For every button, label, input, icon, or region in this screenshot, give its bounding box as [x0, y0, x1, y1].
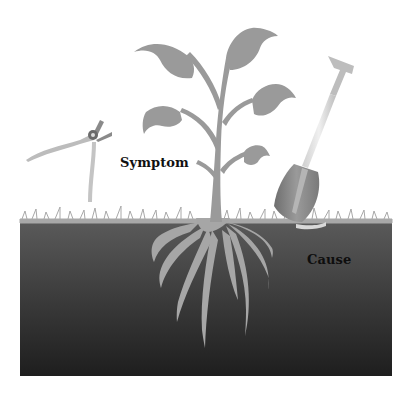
pruning-shears — [26, 120, 112, 202]
leaf — [134, 44, 194, 78]
cause-label: Cause — [307, 252, 351, 267]
leaf — [143, 106, 182, 134]
leaf — [226, 28, 278, 70]
diagram-scene — [0, 0, 410, 398]
leaf — [252, 84, 296, 116]
plant — [134, 28, 296, 222]
symptom-label: Symptom — [120, 155, 189, 170]
shovel — [274, 56, 354, 229]
leaf — [244, 145, 270, 165]
